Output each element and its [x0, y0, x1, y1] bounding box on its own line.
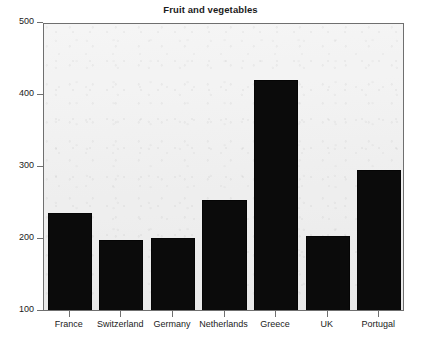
y-axis-tick-label: 400 [19, 88, 34, 98]
x-axis-label-portugal: Portugal [361, 319, 395, 329]
x-axis-tick-mark [172, 311, 173, 317]
bar-portugal [357, 170, 401, 311]
bar-france [48, 213, 92, 311]
x-axis-tick-mark [69, 311, 70, 317]
x-axis-tick-mark [120, 311, 121, 317]
bar-greece [254, 80, 298, 311]
y-axis-tick-label: 200 [19, 232, 34, 242]
x-axis-label-switzerland: Switzerland [97, 319, 144, 329]
x-axis-label-france: France [55, 319, 83, 329]
bar-germany [151, 238, 195, 311]
x-axis-tick-mark [224, 311, 225, 317]
bar-netherlands [202, 200, 246, 311]
x-axis-label-germany: Germany [153, 319, 190, 329]
x-axis-tick-mark [327, 311, 328, 317]
x-axis-label-greece: Greece [260, 319, 290, 329]
x-axis-label-uk: UK [320, 319, 333, 329]
bars-layer [44, 24, 403, 310]
y-axis-tick-label: 500 [19, 16, 34, 26]
bar-uk [306, 236, 350, 311]
bar-chart-figure: Fruit and vegetables 100200300400500 Fra… [0, 0, 421, 347]
x-axis-tick-mark [275, 311, 276, 317]
x-axis-label-netherlands: Netherlands [199, 319, 248, 329]
y-axis-tick-label: 100 [19, 304, 34, 314]
x-axis-tick-mark [378, 311, 379, 317]
bar-switzerland [99, 240, 143, 311]
plot-area [43, 23, 404, 311]
y-axis-tick-label: 300 [19, 160, 34, 170]
chart-title: Fruit and vegetables [0, 4, 421, 15]
